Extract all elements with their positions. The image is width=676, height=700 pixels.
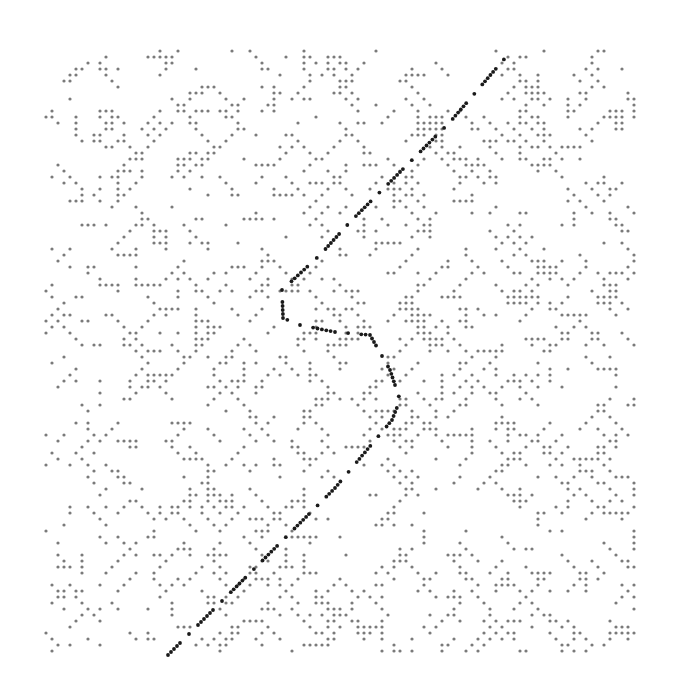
dot-plot-canvas	[0, 0, 676, 700]
background-dots	[44, 49, 635, 652]
main-alignment-path	[166, 58, 506, 657]
